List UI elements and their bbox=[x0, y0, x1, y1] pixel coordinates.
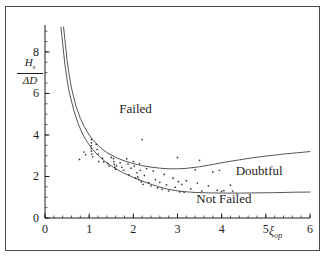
data-point bbox=[185, 180, 187, 182]
y-axis-title: Hs ΔD bbox=[15, 57, 45, 86]
data-point bbox=[128, 174, 130, 176]
data-point bbox=[135, 177, 137, 179]
data-point bbox=[140, 169, 142, 171]
data-point bbox=[91, 139, 93, 141]
data-point bbox=[98, 161, 100, 163]
data-point bbox=[161, 189, 163, 191]
data-point bbox=[121, 166, 123, 168]
data-point bbox=[159, 181, 161, 183]
x-axis-tick-label: 5 bbox=[263, 222, 269, 236]
data-point bbox=[130, 167, 132, 169]
data-point bbox=[91, 142, 93, 144]
x-axis-title-sub: op bbox=[274, 231, 282, 240]
data-point bbox=[150, 185, 152, 187]
data-point bbox=[166, 184, 168, 186]
data-point bbox=[197, 182, 199, 184]
data-point bbox=[146, 168, 148, 170]
data-point bbox=[141, 139, 143, 141]
data-point bbox=[91, 145, 93, 147]
x-axis-tick-label: 6 bbox=[307, 222, 313, 236]
upper-boundary-curve bbox=[64, 27, 310, 169]
data-point bbox=[127, 163, 129, 165]
data-point bbox=[137, 176, 139, 178]
data-point bbox=[97, 153, 99, 155]
y-axis-tick-label: 2 bbox=[33, 169, 39, 183]
x-axis-tick-label: 2 bbox=[130, 222, 136, 236]
data-point bbox=[190, 188, 192, 190]
data-point bbox=[142, 184, 144, 186]
data-point bbox=[119, 162, 121, 164]
x-axis-tick-label: 0 bbox=[42, 222, 48, 236]
data-point bbox=[174, 186, 176, 188]
data-point bbox=[155, 179, 157, 181]
data-point bbox=[113, 164, 115, 166]
y-axis-numerator: Hs bbox=[15, 57, 45, 72]
data-point bbox=[230, 184, 232, 186]
data-point bbox=[91, 150, 93, 152]
data-point bbox=[152, 170, 154, 172]
data-point bbox=[212, 171, 214, 173]
data-point bbox=[144, 175, 146, 177]
data-point bbox=[168, 190, 170, 192]
data-point bbox=[115, 168, 117, 170]
data-point bbox=[102, 157, 104, 159]
data-point bbox=[108, 165, 110, 167]
data-point bbox=[139, 163, 141, 165]
data-point bbox=[208, 185, 210, 187]
data-point bbox=[114, 166, 116, 168]
data-point bbox=[107, 163, 109, 165]
data-point bbox=[95, 143, 97, 145]
data-point bbox=[79, 159, 81, 161]
data-point bbox=[177, 157, 179, 159]
data-point bbox=[140, 181, 142, 183]
data-point bbox=[194, 169, 196, 171]
region-label-failed: Failed bbox=[119, 101, 152, 116]
data-point bbox=[91, 153, 93, 155]
data-point bbox=[179, 191, 181, 193]
data-point bbox=[172, 177, 174, 179]
data-point bbox=[183, 191, 185, 193]
region-label-not-failed: Not Failed bbox=[196, 191, 252, 206]
data-point bbox=[219, 169, 221, 171]
data-point bbox=[103, 161, 105, 163]
data-point bbox=[133, 165, 135, 167]
y-axis-tick-label: 0 bbox=[33, 211, 39, 225]
data-point bbox=[136, 172, 138, 174]
data-point bbox=[163, 174, 165, 176]
data-point bbox=[92, 156, 94, 158]
region-label-doubtful: Doubtful bbox=[236, 163, 283, 178]
data-point bbox=[199, 159, 201, 161]
y-axis-tick-label: 6 bbox=[33, 86, 39, 100]
data-point bbox=[91, 148, 93, 150]
data-point bbox=[96, 149, 98, 151]
data-point bbox=[178, 181, 180, 183]
data-point bbox=[148, 182, 150, 184]
data-point bbox=[126, 158, 128, 160]
y-axis-tick-label: 4 bbox=[33, 128, 39, 142]
data-point bbox=[123, 169, 125, 171]
data-point bbox=[85, 154, 87, 156]
data-point bbox=[113, 161, 115, 163]
data-point bbox=[83, 151, 85, 153]
data-point bbox=[110, 157, 112, 159]
x-axis-tick-label: 4 bbox=[219, 222, 225, 236]
data-point bbox=[116, 165, 118, 167]
x-axis-tick-label: 1 bbox=[86, 222, 92, 236]
x-axis-title: ξop bbox=[269, 224, 282, 240]
data-point bbox=[132, 161, 134, 163]
data-point bbox=[181, 184, 183, 186]
y-axis-numerator-sub: s bbox=[33, 63, 36, 71]
data-point bbox=[138, 179, 140, 181]
data-point bbox=[113, 158, 115, 160]
y-axis-denominator: ΔD bbox=[15, 75, 45, 87]
chart-canvas: 012345602468FailedDoubtfulNot Failed bbox=[0, 0, 329, 260]
x-axis-tick-label: 3 bbox=[175, 222, 181, 236]
data-point bbox=[157, 187, 159, 189]
